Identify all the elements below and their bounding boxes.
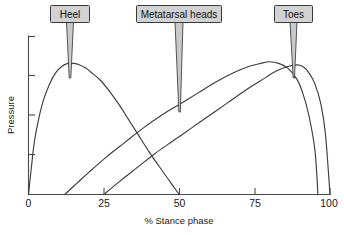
pressure-chart-figure: 0 25 50 75 100 Pressure % Stance phase H… [0,0,344,235]
curve-heel [29,63,180,194]
x-tick-label-75: 75 [249,197,261,209]
x-tick-label-0: 0 [26,197,32,209]
callout-toes[interactable]: Toes [275,6,313,79]
curve-toes [104,65,330,195]
callout-metatarsal-label: Metatarsal heads [141,9,218,20]
x-tick-label-100: 100 [320,197,338,209]
x-axis-title: % Stance phase [144,215,213,226]
callout-heel-pointer [67,22,74,78]
x-tick-label-25: 25 [98,197,110,209]
callout-toes-pointer [290,22,297,78]
x-tick-labels: 0 25 50 75 100 [26,197,338,209]
chart-canvas: 0 25 50 75 100 Pressure % Stance phase H… [0,0,344,235]
callout-metatarsal-pointer [175,22,183,112]
callout-toes-label: Toes [283,9,304,20]
y-axis-title: Pressure [5,96,16,134]
x-tick-label-50: 50 [174,197,186,209]
callout-heel-label: Heel [60,9,81,20]
callout-metatarsal[interactable]: Metatarsal heads [137,6,222,113]
